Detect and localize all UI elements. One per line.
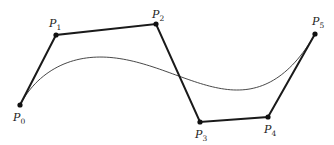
control-point-p4 xyxy=(265,114,270,119)
control-point-p5 xyxy=(312,31,317,36)
control-point-p2 xyxy=(153,21,158,26)
control-polygon xyxy=(20,24,315,122)
diagram-svg: P0P1P2P3P4P5 xyxy=(0,0,334,145)
label-p2: P2 xyxy=(151,8,164,23)
label-p5: P5 xyxy=(311,15,324,30)
label-p1: P1 xyxy=(48,17,61,32)
bezier-curve xyxy=(20,34,315,105)
label-p3: P3 xyxy=(194,128,207,143)
label-p4: P4 xyxy=(263,123,276,138)
label-p0: P0 xyxy=(12,111,25,126)
control-point-p1 xyxy=(53,32,58,37)
control-point-p3 xyxy=(197,119,202,124)
bezier-diagram: P0P1P2P3P4P5 xyxy=(0,0,334,145)
point-labels: P0P1P2P3P4P5 xyxy=(12,8,324,143)
control-point-p0 xyxy=(17,102,22,107)
